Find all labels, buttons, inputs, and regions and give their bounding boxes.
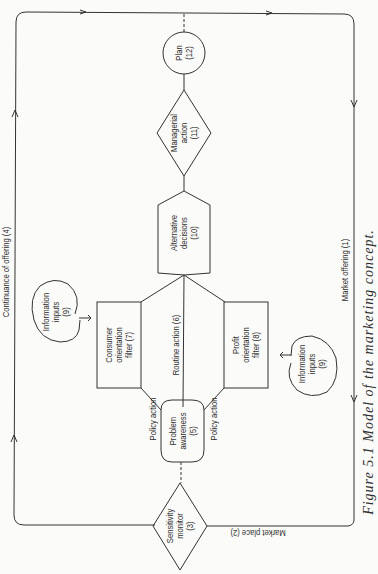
alternative-decisions-label: Alternative decisions (10) xyxy=(169,215,199,251)
profit-filter-label: Profit orientation filter (8) xyxy=(231,327,261,363)
managerial-action-label: Managerial action (11) xyxy=(169,114,199,152)
problem-awareness-label: Problem awareness (5) xyxy=(168,412,198,449)
routine-action-label: Routine action (6) xyxy=(171,315,181,375)
continuance-label: Continuance of offering (4) xyxy=(1,227,11,317)
continuance-line xyxy=(14,22,155,525)
policy-action-left-label: Policy action xyxy=(148,398,158,441)
policy-action-right-label: Policy action xyxy=(209,398,219,441)
market-place-label: Market place (2) xyxy=(230,528,285,538)
plan-label: Plan (12) xyxy=(174,45,194,60)
info-inputs-bottom-label: Information inputs (9) xyxy=(297,345,327,383)
outer-loop-top xyxy=(16,12,354,24)
figure-caption: Figure 5.1 Model of the marketing concep… xyxy=(364,229,374,515)
market-offering-label: Market offering (1) xyxy=(340,239,350,301)
marketing-concept-diagram xyxy=(0,0,378,574)
info-inputs-top-label: Information inputs (9) xyxy=(41,293,71,331)
arrow-top-2 xyxy=(266,11,272,15)
market-offering-line xyxy=(348,135,354,526)
arrow-left-up-1 xyxy=(12,110,18,117)
sensitivity-monitor-label: Sensitivity monitor (3) xyxy=(165,509,195,543)
consumer-filter-label: Consumer orientation filter (7) xyxy=(104,327,134,363)
